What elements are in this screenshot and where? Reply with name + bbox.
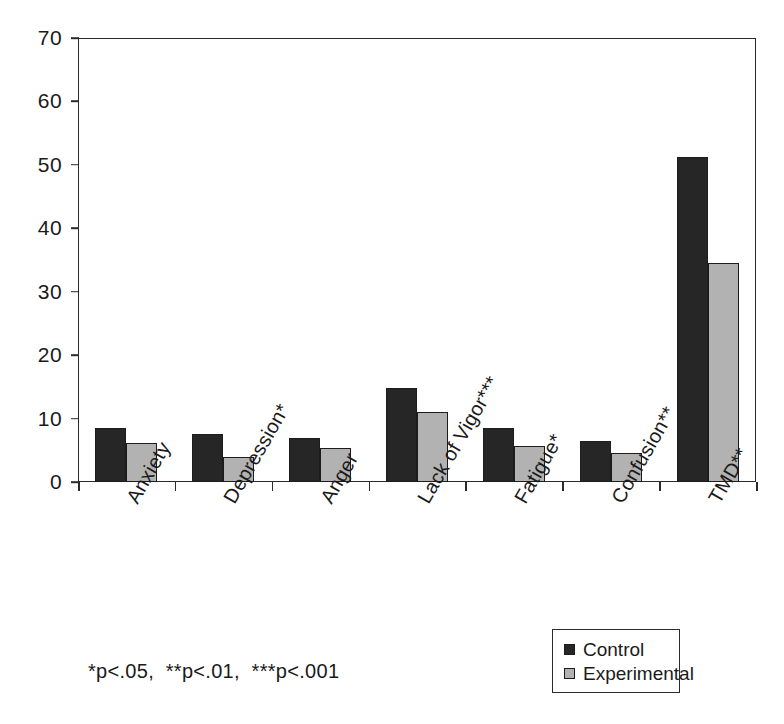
legend-label-control: Control <box>583 640 644 659</box>
y-axis-tick-mark <box>71 101 79 103</box>
legend-item-experimental: Experimental <box>564 661 679 685</box>
y-axis-tick-label: 60 <box>38 89 62 113</box>
x-axis-tick-mark <box>369 482 371 491</box>
bar-control <box>580 441 611 482</box>
bar-control <box>386 388 417 483</box>
x-axis-tick-mark <box>465 482 467 491</box>
bar-control <box>192 434 223 482</box>
y-axis-tick-mark <box>71 37 79 39</box>
chart-page: 010203040506070 AnxietyDepression*AngerL… <box>0 0 784 724</box>
x-axis-tick-mark <box>78 482 80 491</box>
y-axis-tick-label: 50 <box>38 153 62 177</box>
x-axis-tick-mark <box>659 482 661 491</box>
legend-swatch-control-icon <box>564 644 575 655</box>
chart-legend: Control Experimental <box>552 629 680 693</box>
y-axis-tick-mark <box>71 354 79 356</box>
y-axis-tick-mark <box>71 227 79 229</box>
x-axis-tick-mark <box>562 482 564 491</box>
significance-footnote: *p<.05, **p<.01, ***p<.001 <box>88 660 339 683</box>
y-axis-tick-mark <box>71 164 79 166</box>
bar-control <box>289 438 320 482</box>
legend-item-control: Control <box>564 637 679 661</box>
y-axis-tick-mark <box>71 418 79 420</box>
x-axis-tick-mark <box>175 482 177 491</box>
bar-control <box>483 428 514 482</box>
legend-label-experimental: Experimental <box>583 664 694 683</box>
x-axis-tick-mark <box>756 482 758 491</box>
y-axis-tick-label: 40 <box>38 216 62 240</box>
y-axis-tick-label: 30 <box>38 280 62 304</box>
y-axis-tick-label: 70 <box>38 26 62 50</box>
legend-swatch-experimental-icon <box>564 668 575 679</box>
bar-control <box>95 428 126 482</box>
x-axis-tick-mark <box>272 482 274 491</box>
y-axis-tick-label: 0 <box>50 470 62 494</box>
y-axis-tick-label: 10 <box>38 407 62 431</box>
bar-control <box>677 157 708 482</box>
y-axis-tick-label: 20 <box>38 343 62 367</box>
y-axis: 010203040506070 <box>0 0 62 724</box>
y-axis-tick-mark <box>71 291 79 293</box>
